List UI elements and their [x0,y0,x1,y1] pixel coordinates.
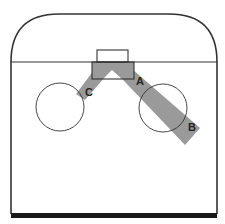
label-b: B [188,121,196,133]
label-c: C [85,86,93,98]
label-a: A [136,75,144,87]
left-circle [36,83,84,131]
floor-bar [11,213,217,218]
upper-box [97,50,128,62]
band-apex [92,62,134,79]
court-diagram: A B C [0,0,225,224]
